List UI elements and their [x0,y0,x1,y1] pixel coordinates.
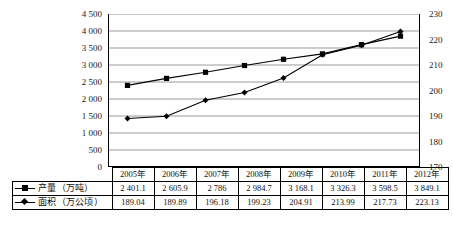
table-header-cell-year: 2008年 [238,168,280,182]
right-axis-tick-label: 180 [429,138,453,147]
table-cell-value: 3 598.5 [364,182,406,196]
left-axis-tick-label: 4 500 [56,10,102,19]
right-axis-tick-label: 230 [429,10,453,19]
table-cell-value: 199.23 [238,196,280,210]
table-header-cell-year: 2009年 [280,168,322,182]
table-header-cell-year: 2006年 [154,168,196,182]
legend-diamond-marker-icon [15,198,35,207]
table-header-cell-year: 2007年 [196,168,238,182]
table-header-row: 2005年2006年2007年2008年2009年2010年2011年2012年 [13,168,449,182]
left-axis-tick-label: 500 [56,146,102,155]
legend-diamond-glyph [21,198,28,205]
table-header-cell-year: 2011年 [364,168,406,182]
legend-cell-inner: 产量（万吨） [15,183,111,194]
legend-square-glyph [22,185,28,191]
table-cell-value: 223.13 [406,196,448,210]
left-axis-tick-label: 1 500 [56,112,102,121]
table-cell-value: 217.73 [364,196,406,210]
table-cell-value: 196.18 [196,196,238,210]
right-axis-tick-label: 200 [429,87,453,96]
table-cell-value: 189.04 [112,196,154,210]
legend-item-yield: 产量（万吨） [13,182,113,196]
plot-frame [108,14,420,167]
table-row: 产量（万吨）2 401.12 605.92 7862 984.73 168.13… [13,182,449,196]
left-axis-tick-label: 1 000 [56,129,102,138]
right-axis-tick-label: 210 [429,61,453,70]
legend-label: 产量（万吨） [38,183,94,194]
right-axis-tick-label: 220 [429,36,453,45]
table-header-blank-cell [13,168,113,182]
plot-area [108,14,420,167]
gridlines [108,14,420,150]
table-cell-value: 213.99 [322,196,364,210]
table-cell-value: 3 326.3 [322,182,364,196]
table-header-cell-year: 2010年 [322,168,364,182]
table-cell-value: 3 849.1 [406,182,448,196]
legend-square-marker-icon [15,184,35,193]
legend-item-area: 面积（万公顷） [13,196,113,210]
left-axis-tick-label: 2 000 [56,95,102,104]
table-cell-value: 3 168.1 [280,182,322,196]
left-axis-tick-label: 4 000 [56,27,102,36]
data-table-body: 2005年2006年2007年2008年2009年2010年2011年2012年… [13,168,449,210]
table-header-cell-year: 2012年 [406,168,448,182]
legend-label: 面积（万公顷） [38,197,103,208]
series-markers [125,29,404,122]
left-axis-tick-label: 3 500 [56,44,102,53]
data-table: 2005年2006年2007年2008年2009年2010年2011年2012年… [12,167,449,210]
legend-cell-inner: 面积（万公顷） [15,197,111,208]
left-axis-tick-label: 2 500 [56,78,102,87]
table-cell-value: 2 984.7 [238,182,280,196]
table-cell-value: 2 786 [196,182,238,196]
plot-svg [108,14,420,167]
table-cell-value: 189.89 [154,196,196,210]
table-header-cell-year: 2005年 [112,168,154,182]
table-cell-value: 2 401.1 [112,182,154,196]
table-cell-value: 2 605.9 [154,182,196,196]
left-axis-tick-label: 3 000 [56,61,102,70]
table-cell-value: 204.91 [280,196,322,210]
table-row: 面积（万公顷）189.04189.89196.18199.23204.91213… [13,196,449,210]
right-axis-tick-label: 190 [429,112,453,121]
